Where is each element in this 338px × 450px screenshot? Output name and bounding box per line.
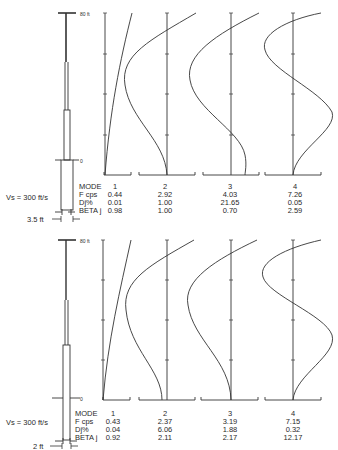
upper-shear-velocity-label: Vs = 300 ft/s — [6, 193, 48, 202]
upper-mode-2-curve — [124, 13, 196, 175]
upper-structure-sketch — [55, 13, 79, 215]
lower-width-label: 2 ft — [33, 442, 43, 450]
beta-value: 2.17 — [210, 433, 250, 442]
beta-value: 0.70 — [210, 206, 250, 215]
lower-mode-3-curve — [187, 240, 257, 400]
beta-value: 12.17 — [273, 433, 313, 442]
upper-mode-3-curve — [189, 13, 259, 175]
lower-top-elevation-label: 80 ft — [80, 237, 90, 246]
lower-mode-4-curve — [262, 240, 332, 400]
lower-base-elevation-label: 0 — [80, 395, 83, 404]
beta-value: 0.92 — [93, 433, 133, 442]
mode-shape-diagram — [0, 0, 338, 450]
upper-mode-4-curve — [264, 13, 332, 175]
upper-base-elevation-label: 0 — [80, 157, 83, 166]
lower-shear-velocity-label: Vs = 300 ft/s — [6, 418, 48, 427]
upper-mode-1-curve — [105, 13, 132, 175]
beta-value: 0.98 — [95, 206, 135, 215]
beta-value: 2.11 — [145, 433, 185, 442]
beta-value: 2.59 — [275, 206, 315, 215]
beta-value: 1.00 — [145, 206, 185, 215]
lower-mode-2-curve — [126, 240, 194, 400]
upper-top-elevation-label: 80 ft — [80, 10, 90, 19]
lower-mode-1-curve — [103, 240, 131, 400]
upper-mode-axes — [103, 13, 321, 175]
lower-mode-axes — [101, 240, 321, 400]
upper-width-label: 3.5 ft — [27, 215, 44, 224]
